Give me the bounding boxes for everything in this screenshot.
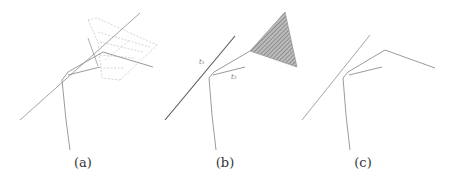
- caption-a: (a): [74, 155, 92, 170]
- label-t1: t₁: [199, 58, 205, 66]
- tangent-line-dark: [165, 36, 235, 120]
- curve: [343, 50, 435, 150]
- curve: [62, 52, 153, 150]
- panel-c: [302, 35, 435, 150]
- figure: t₁ t₂ (a) (b) (c): [0, 0, 450, 179]
- curve: [209, 51, 250, 150]
- tangent-line: [20, 13, 140, 120]
- tangent-line: [302, 35, 370, 120]
- panel-b: t₁ t₂: [165, 12, 297, 150]
- caption-c: (c): [354, 155, 371, 170]
- diagram-canvas: t₁ t₂: [0, 0, 450, 179]
- panel-a: [20, 13, 157, 150]
- label-t2: t₂: [231, 73, 237, 81]
- caption-b: (b): [216, 155, 234, 170]
- dotted-planes: [88, 18, 157, 80]
- hatched-triangle: [250, 12, 297, 67]
